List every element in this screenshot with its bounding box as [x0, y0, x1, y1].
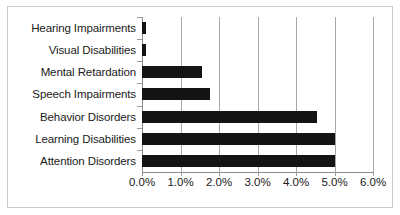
y-axis-tick-mark — [137, 83, 142, 84]
bar — [142, 88, 210, 100]
bar-row: Mental Retardation — [0, 61, 400, 83]
bar-row: Learning Disabilities — [0, 128, 400, 150]
bar-row: Behavior Disorders — [0, 106, 400, 128]
category-label: Learning Disabilities — [35, 133, 136, 145]
category-label: Hearing Impairments — [31, 22, 136, 34]
bar-row: Hearing Impairments — [0, 17, 400, 39]
category-label: Visual Disabilities — [49, 44, 136, 56]
y-axis-tick-mark — [137, 17, 142, 18]
y-axis-tick-mark — [137, 150, 142, 151]
bar — [142, 133, 335, 145]
category-label: Attention Disorders — [40, 155, 136, 167]
bar — [142, 111, 317, 123]
category-label: Mental Retardation — [41, 66, 136, 78]
x-axis-tick-label: 0.0% — [129, 176, 155, 188]
y-axis-tick-mark — [137, 61, 142, 62]
x-axis-tick-label: 6.0% — [360, 176, 386, 188]
y-axis-tick-mark — [137, 128, 142, 129]
bar — [142, 44, 146, 56]
bar — [142, 155, 335, 167]
category-label: Speech Impairments — [32, 88, 136, 100]
y-axis-tick-mark — [137, 39, 142, 40]
x-axis-tick-label: 4.0% — [283, 176, 309, 188]
bar — [142, 66, 202, 78]
category-label: Behavior Disorders — [40, 111, 136, 123]
bar-row: Visual Disabilities — [0, 39, 400, 61]
bar-row: Attention Disorders — [0, 150, 400, 172]
bar-row: Speech Impairments — [0, 83, 400, 105]
bar-rows: Hearing ImpairmentsVisual DisabilitiesMe… — [0, 17, 400, 172]
x-axis-tick-label: 5.0% — [321, 176, 347, 188]
chart-container: Hearing ImpairmentsVisual DisabilitiesMe… — [0, 0, 400, 215]
y-axis-tick-mark — [137, 106, 142, 107]
x-axis-tick-labels: 0.0%1.0%2.0%3.0%4.0%5.0%6.0% — [0, 176, 400, 196]
x-axis-tick-label: 2.0% — [206, 176, 232, 188]
x-axis-tick-label: 1.0% — [167, 176, 193, 188]
x-axis-tick-label: 3.0% — [244, 176, 270, 188]
bar — [142, 22, 146, 34]
